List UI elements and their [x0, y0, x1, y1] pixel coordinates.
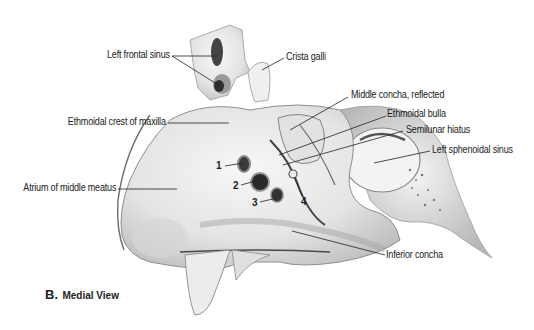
label-ethmoidal-crest-of-maxilla: Ethmoidal crest of maxilla	[68, 116, 166, 127]
label-middle-concha-reflected: Middle concha, reflected	[351, 89, 444, 100]
label-atrium-of-middle-meatus: Atrium of middle meatus	[23, 182, 116, 193]
number-label-2: 2	[233, 180, 239, 191]
caption-letter: B.	[45, 287, 58, 302]
number-label-3: 3	[252, 197, 258, 208]
anatomy-figure: Left frontal sinus Crista galli Middle c…	[0, 0, 534, 330]
label-left-sphenoidal-sinus: Left sphenoidal sinus	[432, 144, 513, 155]
number-label-4: 4	[301, 196, 307, 207]
label-inferior-concha: Inferior concha	[386, 249, 443, 260]
label-left-frontal-sinus: Left frontal sinus	[107, 49, 170, 60]
nasal-cavity-illustration	[0, 0, 534, 330]
label-crista-galli: Crista galli	[286, 51, 326, 62]
label-ethmoidal-bulla: Ethmoidal bulla	[387, 108, 446, 119]
caption-text: Medial View	[62, 290, 119, 301]
label-semilunar-hiatus: Semilunar hiatus	[406, 124, 470, 135]
figure-caption: B. Medial View	[45, 285, 119, 303]
number-label-1: 1	[216, 160, 222, 171]
